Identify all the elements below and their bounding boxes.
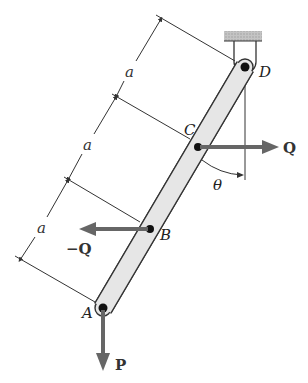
pin-d (241, 63, 250, 72)
ceiling-block (224, 31, 262, 41)
theta-label: θ (213, 176, 222, 194)
label-b: B (159, 226, 171, 244)
label-a: A (80, 304, 93, 322)
theta-arc (202, 160, 242, 175)
dimension-label-cb: a (83, 136, 92, 154)
force-p-label: P (115, 356, 126, 374)
force-q-label: Q (283, 139, 296, 157)
force-p-arrow (96, 310, 110, 371)
force-neg-q-label: −Q (66, 240, 92, 258)
dimension-label-dc: a (125, 63, 134, 81)
theta-arrowhead (237, 172, 244, 178)
label-d: D (258, 63, 271, 81)
dimension-label-ba: a (37, 219, 46, 237)
label-c: C (184, 121, 196, 139)
statics-diagram: a a a θ Q −Q P D C B A (0, 0, 308, 383)
